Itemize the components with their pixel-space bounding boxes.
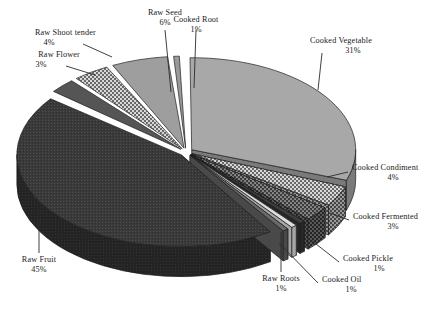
callout-percent: 3% (353, 222, 433, 232)
callout-label: Cooked Root (163, 15, 229, 25)
callout-label: Raw Shoot tender (2, 28, 96, 38)
callout-cooked-vegetable: Cooked Vegetable 31% (310, 36, 396, 55)
callout-label: Raw Flower (2, 50, 80, 60)
callout-cooked-pickle: Cooked Pickle 1% (343, 254, 415, 273)
callout-label: Cooked Fermented (353, 212, 433, 222)
pie-chart-figure: Cooked Root 1%Raw Seed 6%Raw Shoot tende… (0, 0, 435, 312)
callout-raw-flower: Raw Flower 3% (2, 50, 80, 69)
callout-label: Cooked Condiment (352, 163, 434, 173)
pie-slice-side-cooked-oil (292, 225, 296, 257)
callout-raw-shoot-tender: Raw Shoot tender 4% (2, 28, 96, 47)
callout-percent: 1% (322, 285, 380, 295)
callout-label: Raw Roots (249, 274, 313, 284)
pie-slice-side-raw-roots (283, 229, 288, 261)
callout-raw-roots: Raw Roots 1% (249, 274, 313, 293)
callout-percent: 31% (310, 46, 396, 56)
callout-label: Cooked Pickle (343, 254, 415, 264)
callout-label: Raw Fruit (8, 255, 70, 265)
callout-percent: 4% (2, 38, 96, 48)
callout-label: Cooked Vegetable (310, 36, 396, 46)
callout-percent: 4% (352, 173, 434, 183)
callout-cooked-oil: Cooked Oil 1% (322, 275, 380, 294)
callout-percent: 3% (2, 60, 80, 70)
callout-label: Cooked Oil (322, 275, 380, 285)
callout-percent: 1% (343, 264, 415, 274)
callout-cooked-root: Cooked Root 1% (163, 15, 229, 34)
callout-raw-fruit: Raw Fruit 45% (8, 255, 70, 274)
callout-percent: 1% (249, 284, 313, 294)
callout-percent: 45% (8, 265, 70, 275)
callout-cooked-condiment: Cooked Condiment 4% (352, 163, 434, 182)
pie-slice-side-cooked-pickle (300, 221, 304, 253)
leader-cooked-pickle (311, 240, 339, 262)
callout-percent: 1% (163, 25, 229, 35)
callout-cooked-fermented: Cooked Fermented 3% (353, 212, 433, 231)
leader-cooked-vegetable (318, 53, 322, 90)
